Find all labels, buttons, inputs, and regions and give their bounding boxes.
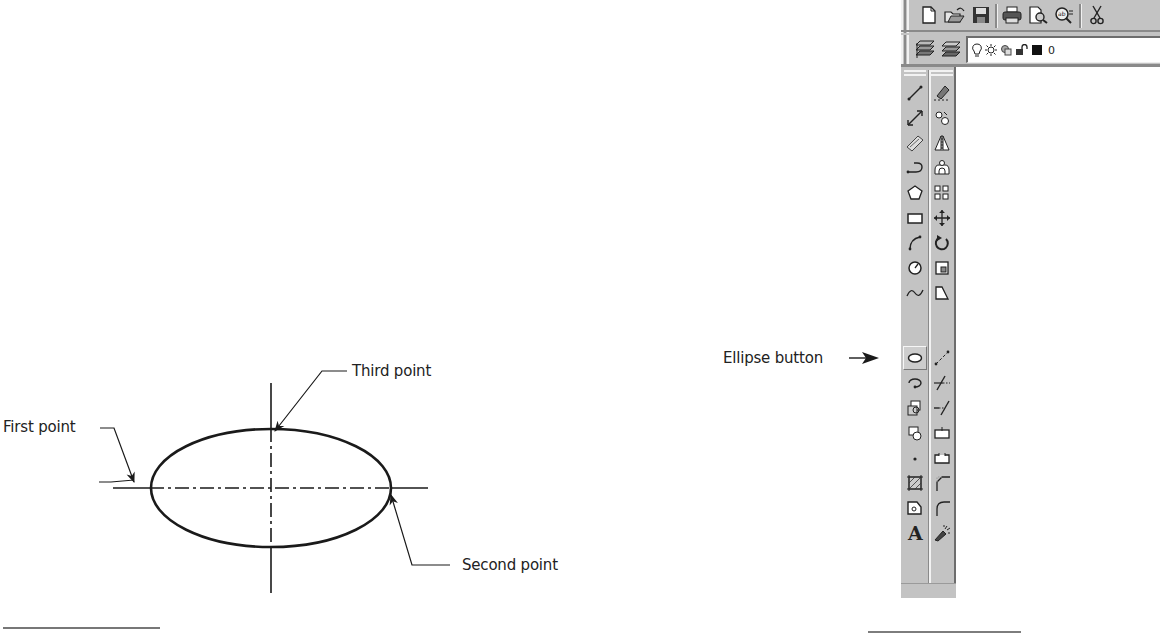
new-document-icon	[921, 6, 937, 24]
modify-toolbar-grip[interactable]	[931, 70, 953, 76]
draw-region-button[interactable]	[903, 496, 927, 520]
draw-multiline-button[interactable]	[903, 131, 927, 155]
make-block-icon	[906, 424, 924, 442]
draw-circle-button[interactable]	[903, 256, 927, 280]
current-layer-name: 0	[1048, 44, 1055, 57]
make-current-layer-button[interactable]	[939, 38, 963, 60]
move-icon	[933, 209, 951, 227]
modify-scale-button[interactable]	[930, 256, 954, 280]
print-button[interactable]	[1000, 4, 1024, 26]
modify-mirror-button[interactable]	[930, 131, 954, 155]
arc-icon	[906, 234, 924, 252]
open-button[interactable]	[943, 4, 967, 26]
line-icon	[906, 84, 924, 102]
toolbar-separator	[1079, 4, 1082, 28]
modify-trim-button[interactable]	[930, 371, 954, 395]
break-icon	[933, 449, 951, 467]
printer-icon	[1002, 6, 1022, 24]
layer-properties-button[interactable]	[913, 38, 937, 60]
save-disk-icon	[972, 6, 990, 24]
extend-icon	[933, 399, 951, 417]
third-point-label: Third point	[352, 362, 431, 380]
polygon-icon	[906, 184, 924, 202]
offset-icon	[933, 159, 951, 177]
xline-icon	[906, 109, 924, 127]
draw-insert-block-button[interactable]	[903, 396, 927, 420]
sun-freeze-icon	[985, 44, 997, 56]
draw-ellipse-arc-button[interactable]	[903, 371, 927, 395]
bottom-rule-right	[868, 631, 1021, 633]
modify-stretch-button[interactable]	[930, 281, 954, 305]
unlock-icon	[1015, 44, 1029, 56]
layers-toolbar: 0	[901, 33, 1160, 67]
modify-explode-button[interactable]	[930, 521, 954, 545]
modify-rotate-button[interactable]	[930, 231, 954, 255]
modify-array-button[interactable]	[930, 181, 954, 205]
layer-manager-icon	[914, 39, 936, 59]
stretch-icon	[933, 284, 951, 302]
hatch-icon	[906, 474, 924, 492]
fillet-icon	[933, 499, 951, 517]
layer-control-dropdown[interactable]: 0	[966, 36, 1160, 63]
find-replace-button[interactable]: ab	[1052, 4, 1076, 26]
toolbar-bottom-edge	[901, 583, 956, 598]
modify-erase-button[interactable]	[930, 81, 954, 105]
ellipse-button-arrow	[848, 350, 880, 366]
toolbar-right-edge	[954, 67, 956, 597]
scale-icon	[933, 259, 951, 277]
lightbulb-icon	[972, 43, 982, 57]
draw-polyline-button[interactable]	[903, 156, 927, 180]
region-icon	[906, 499, 924, 517]
text-a-icon: A	[906, 523, 924, 543]
spline-icon	[906, 284, 924, 302]
ellipse-arc-icon	[906, 374, 924, 392]
draw-spline-button[interactable]	[903, 281, 927, 305]
scissors-icon	[1090, 5, 1104, 25]
draw-ellipse-button[interactable]	[903, 346, 927, 370]
modify-move-button[interactable]	[930, 206, 954, 230]
ellipse-icon	[906, 349, 924, 367]
first-point-leader-arrow	[100, 428, 134, 482]
first-point-leader	[99, 480, 134, 482]
draw-rectangle-button[interactable]	[903, 206, 927, 230]
modify-break-at-point-button[interactable]	[930, 421, 954, 445]
draw-hatch-button[interactable]	[903, 471, 927, 495]
multiline-icon	[906, 134, 924, 152]
mirror-icon	[933, 134, 951, 152]
find-replace-icon: ab	[1053, 6, 1075, 24]
second-point-label: Second point	[462, 556, 558, 574]
chamfer-icon	[933, 474, 951, 492]
modify-offset-button[interactable]	[930, 156, 954, 180]
lengthen-icon	[933, 349, 951, 367]
svg-text:A: A	[907, 523, 923, 543]
rotate-icon	[933, 234, 951, 252]
draw-text-button[interactable]: A	[903, 521, 927, 545]
draw-point-button[interactable]	[903, 446, 927, 470]
modify-copy-button[interactable]	[930, 106, 954, 130]
save-button[interactable]	[969, 4, 993, 26]
explode-icon	[933, 524, 951, 542]
new-button[interactable]	[917, 4, 941, 26]
svg-text:ab: ab	[1058, 10, 1066, 17]
trim-icon	[933, 374, 951, 392]
color-swatch-icon	[1032, 45, 1042, 55]
draw-line-button[interactable]	[903, 81, 927, 105]
ellipse-button-label: Ellipse button	[723, 349, 823, 367]
first-point-label: First point	[3, 418, 75, 436]
break-point-icon	[933, 424, 951, 442]
modify-lengthen-button[interactable]	[930, 346, 954, 370]
print-preview-button[interactable]	[1026, 4, 1050, 26]
cut-button[interactable]	[1085, 4, 1109, 26]
modify-chamfer-button[interactable]	[930, 471, 954, 495]
draw-make-block-button[interactable]	[903, 421, 927, 445]
modify-fillet-button[interactable]	[930, 496, 954, 520]
draw-construction-line-button[interactable]	[903, 106, 927, 130]
draw-polygon-button[interactable]	[903, 181, 927, 205]
eraser-icon	[933, 84, 951, 102]
modify-extend-button[interactable]	[930, 396, 954, 420]
ellipse-construction-diagram	[0, 0, 700, 641]
rectangle-icon	[906, 209, 924, 227]
modify-break-button[interactable]	[930, 446, 954, 470]
draw-toolbar-grip[interactable]	[904, 70, 926, 76]
draw-arc-button[interactable]	[903, 231, 927, 255]
